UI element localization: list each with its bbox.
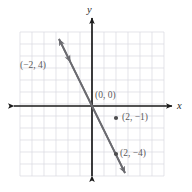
point-2-neg4 [114, 152, 118, 156]
point-label-neg2-4: (−2, 4) [20, 61, 46, 71]
point-2-neg1 [114, 116, 118, 120]
point-label-2-neg1: (2, −1) [122, 113, 148, 123]
coordinate-plane-figure: (−2, 4) (0, 0) (2, −1) (2, −4) x y [0, 0, 192, 192]
x-axis-label: x [177, 101, 182, 112]
point-label-2-neg4: (2, −4) [120, 149, 146, 159]
y-axis-label: y [87, 5, 92, 16]
point-label-origin: (0, 0) [95, 91, 116, 101]
